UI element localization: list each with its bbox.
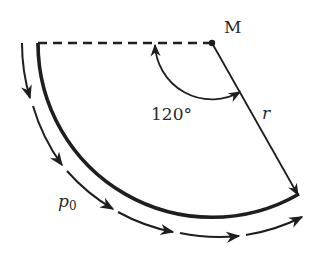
flow-arrow-2	[33, 106, 62, 165]
angle-label: 120°	[151, 104, 192, 124]
sector-arc	[38, 43, 299, 217]
flow-arrow-6	[246, 217, 302, 235]
flow-arrow-5	[180, 233, 239, 237]
radius-label: r	[262, 103, 271, 123]
sector-diagram: M 120° r p0	[0, 0, 319, 253]
center-label: M	[224, 17, 241, 37]
flow-arrow-4	[118, 212, 173, 232]
pressure-label: p0	[58, 191, 77, 213]
angle-arc	[155, 45, 240, 99]
flow-arrow-1	[22, 43, 30, 98]
pressure-subscript: 0	[69, 199, 77, 213]
pressure-symbol: p	[58, 191, 69, 211]
radius-arrow	[212, 43, 298, 195]
